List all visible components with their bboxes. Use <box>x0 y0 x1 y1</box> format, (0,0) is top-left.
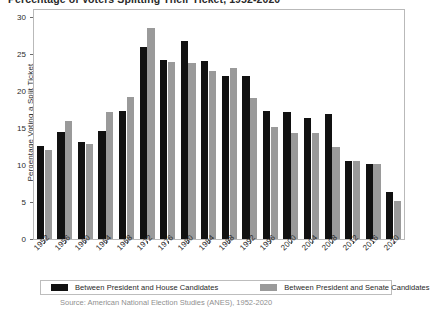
chart-caption-clipped: Source: American National Election Studi… <box>0 300 410 309</box>
bar-house <box>160 60 167 240</box>
bar-senate <box>45 150 52 239</box>
bar-house <box>201 61 208 239</box>
legend-swatch-senate-icon <box>260 284 277 291</box>
bar-senate <box>291 133 298 239</box>
bar-house <box>263 111 270 239</box>
chart-title: Percentage of Voters Splitting Their Tic… <box>8 0 280 5</box>
bar-house <box>386 192 393 239</box>
bar-senate <box>332 147 339 239</box>
bar-senate <box>106 112 113 239</box>
bar-senate <box>127 97 134 239</box>
bar-group <box>78 10 93 239</box>
bar-senate <box>230 68 237 239</box>
bar-house <box>283 112 290 239</box>
bar-group <box>242 10 257 239</box>
bar-senate <box>209 71 216 239</box>
bar-group <box>283 10 298 239</box>
bar-group <box>181 10 196 239</box>
bar-group <box>37 10 52 239</box>
x-axis: 1952195619601964196819721976198019841988… <box>34 241 404 275</box>
legend-item-house: Between President and House Candidates <box>51 281 218 294</box>
bar-house <box>119 111 126 239</box>
bar-house <box>37 146 44 239</box>
bar-senate <box>168 62 175 239</box>
legend-label-house: Between President and House Candidates <box>75 283 218 292</box>
bar-senate <box>65 121 72 239</box>
bar-group <box>57 10 72 239</box>
legend-label-senate: Between President and Senate Candidates <box>284 283 429 292</box>
legend-item-senate: Between President and Senate Candidates <box>260 281 429 294</box>
y-axis-tick-label: 0 <box>0 235 28 244</box>
bar-group <box>263 10 278 239</box>
y-axis-tick-label: 30 <box>0 13 28 22</box>
bar-senate <box>86 144 93 239</box>
bar-senate <box>353 161 360 239</box>
bar-group <box>366 10 381 239</box>
bar-group <box>325 10 340 239</box>
y-axis-tick-label: 25 <box>0 50 28 59</box>
bar-group <box>386 10 401 239</box>
bar-senate <box>250 98 257 239</box>
y-axis-tick-label: 5 <box>0 198 28 207</box>
bar-house <box>78 142 85 239</box>
bar-house <box>98 131 105 239</box>
bar-senate <box>373 164 380 239</box>
y-axis-tick-label: 10 <box>0 161 28 170</box>
bar-group <box>98 10 113 239</box>
bar-group <box>345 10 360 239</box>
bar-house <box>57 132 64 239</box>
bar-group <box>160 10 175 239</box>
y-axis-tick-label: 15 <box>0 124 28 133</box>
bar-house <box>325 114 332 239</box>
chart-caption: Source: American National Election Studi… <box>60 300 272 307</box>
bar-senate <box>312 133 319 239</box>
bar-house <box>242 76 249 239</box>
bar-senate <box>147 28 154 239</box>
bar-house <box>222 76 229 239</box>
bar-house <box>366 164 373 239</box>
bar-senate <box>188 63 195 239</box>
chart-title-clipped: Percentage of Voters Splitting Their Tic… <box>0 0 410 7</box>
bar-group <box>304 10 319 239</box>
bar-house <box>140 47 147 239</box>
y-axis-tick-label: 20 <box>0 87 28 96</box>
bar-senate <box>271 127 278 239</box>
bar-house <box>345 161 352 239</box>
bars-layer <box>34 10 404 239</box>
bar-group <box>119 10 134 239</box>
bar-house <box>304 118 311 239</box>
bar-house <box>181 41 188 239</box>
bar-group <box>201 10 216 239</box>
bar-group <box>222 10 237 239</box>
bar-group <box>140 10 155 239</box>
legend-swatch-house-icon <box>51 284 68 291</box>
chart-legend: Between President and House Candidates B… <box>40 280 392 295</box>
